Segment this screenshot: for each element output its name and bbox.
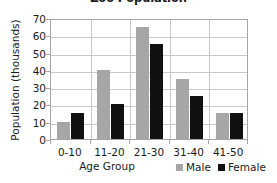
x-axis-title: Age Group <box>52 160 162 172</box>
y-axis-title: Population (thousands) <box>9 13 21 147</box>
bar-female-31-40 <box>190 96 203 139</box>
chart-legend: MaleFemale <box>176 160 266 174</box>
bar-group <box>130 20 170 139</box>
x-axis-tick-marks <box>50 140 248 144</box>
x-axis-tick-mark <box>50 140 51 144</box>
y-axis-tick-label: 10 <box>22 118 46 128</box>
y-axis-tick-label: 40 <box>22 66 46 76</box>
bar-female-0-10 <box>71 113 84 139</box>
bar-group <box>170 20 210 139</box>
bar-group <box>91 20 131 139</box>
legend-swatch-icon <box>218 164 225 171</box>
y-axis-tick-label: 30 <box>22 83 46 93</box>
x-axis-tick-label: 11-20 <box>90 146 130 158</box>
bar-female-41-50 <box>230 113 243 139</box>
y-axis-tick-label: 20 <box>22 100 46 110</box>
y-axis-tick-label: 70 <box>22 14 46 24</box>
bar-male-21-30 <box>136 27 149 139</box>
legend-label: Male <box>186 161 211 173</box>
bar-female-11-20 <box>111 104 124 139</box>
x-axis-tick-mark <box>90 140 91 144</box>
x-axis-tick-label: 0-10 <box>50 146 90 158</box>
chart-title: Zoo Population <box>0 0 277 5</box>
bar-male-0-10 <box>57 122 70 139</box>
bar-group <box>209 20 249 139</box>
x-axis-tick-label: 21-30 <box>129 146 169 158</box>
legend-label: Female <box>228 161 266 173</box>
x-axis-tick-label: 31-40 <box>169 146 209 158</box>
legend-item-female[interactable]: Female <box>218 161 266 173</box>
x-axis-tick-mark <box>247 140 248 144</box>
bar-male-11-20 <box>97 70 110 139</box>
legend-item-male[interactable]: Male <box>176 161 211 173</box>
x-axis-tick-mark <box>129 140 130 144</box>
bar-male-31-40 <box>176 79 189 140</box>
x-axis-tick-mark <box>208 140 209 144</box>
bar-group <box>51 20 91 139</box>
legend-swatch-icon <box>176 164 183 171</box>
bar-chart: Zoo Population Population (thousands) 01… <box>0 0 277 183</box>
y-axis-tick-labels: 010203040506070 <box>22 19 46 140</box>
y-axis-tick-label: 60 <box>22 31 46 41</box>
plot-area <box>50 19 248 140</box>
y-axis-tick-label: 0 <box>22 135 46 145</box>
x-axis-tick-mark <box>169 140 170 144</box>
bar-male-41-50 <box>216 113 229 139</box>
y-axis-tick-label: 50 <box>22 49 46 59</box>
x-axis-tick-label: 41-50 <box>208 146 248 158</box>
x-axis-tick-labels: 0-1011-2021-3031-4041-50 <box>50 146 248 160</box>
bar-female-21-30 <box>150 44 163 139</box>
